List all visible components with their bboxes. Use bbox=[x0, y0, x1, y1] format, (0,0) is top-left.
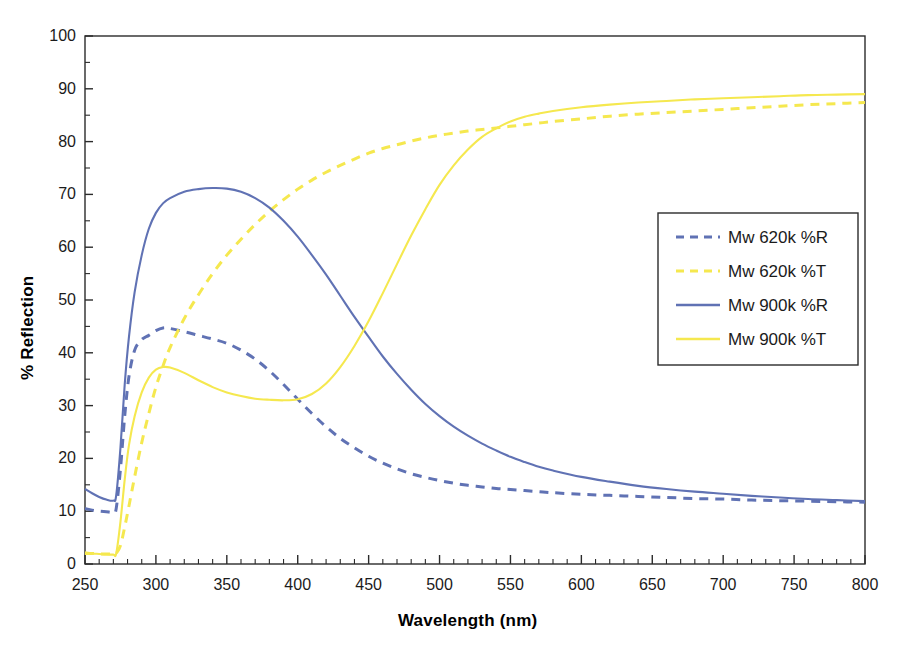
x-tick-label: 700 bbox=[710, 576, 737, 594]
y-tick-label: 50 bbox=[28, 291, 76, 309]
y-tick-label: 90 bbox=[28, 80, 76, 98]
x-tick-label: 650 bbox=[639, 576, 666, 594]
x-tick-label: 500 bbox=[426, 576, 453, 594]
legend-label: Mw 620k %T bbox=[728, 262, 826, 281]
legend-label: Mw 620k %R bbox=[728, 228, 828, 247]
x-tick-label: 350 bbox=[213, 576, 240, 594]
x-tick-label: 450 bbox=[355, 576, 382, 594]
x-tick-label: 400 bbox=[284, 576, 311, 594]
legend-label: Mw 900k %R bbox=[728, 296, 828, 315]
y-tick-label: 70 bbox=[28, 185, 76, 203]
y-tick-label: 10 bbox=[28, 502, 76, 520]
legend-group: Mw 620k %RMw 620k %TMw 900k %RMw 900k %T bbox=[658, 213, 858, 365]
x-axis-title: Wavelength (nm) bbox=[398, 611, 537, 631]
x-tick-label: 600 bbox=[568, 576, 595, 594]
x-tick-label: 750 bbox=[781, 576, 808, 594]
y-tick-label: 80 bbox=[28, 133, 76, 151]
y-tick-label: 20 bbox=[28, 449, 76, 467]
x-tick-label: 550 bbox=[497, 576, 524, 594]
y-tick-label: 0 bbox=[28, 555, 76, 573]
x-tick-label: 250 bbox=[72, 576, 99, 594]
y-tick-label: 100 bbox=[28, 27, 76, 45]
y-tick-label: 40 bbox=[28, 344, 76, 362]
legend-label: Mw 900k %T bbox=[728, 330, 826, 349]
y-tick-label: 60 bbox=[28, 238, 76, 256]
x-tick-label: 300 bbox=[143, 576, 170, 594]
y-tick-label: 30 bbox=[28, 397, 76, 415]
plot-canvas: Mw 620k %RMw 620k %TMw 900k %RMw 900k %T bbox=[0, 0, 900, 658]
x-tick-label: 800 bbox=[852, 576, 879, 594]
reflection-transmission-chart: % Reflection Wavelength (nm) 01020304050… bbox=[0, 0, 900, 658]
